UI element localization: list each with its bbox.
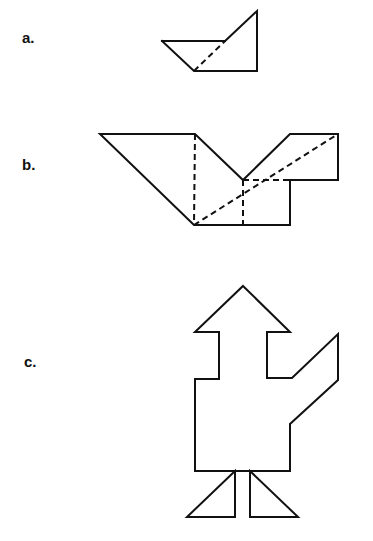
- figure-b-outline: [100, 134, 338, 225]
- figure-a-dashed-line: [194, 41, 225, 71]
- figure-b-bird-shape: [100, 134, 338, 225]
- tangram-figures: [0, 0, 373, 541]
- figure-c-person-shape: [187, 286, 338, 517]
- figure-a-boat-shape: [162, 11, 257, 71]
- figure-b-dashed-line: [194, 134, 195, 225]
- figure-c-outline: [187, 471, 235, 517]
- figure-c-outline: [250, 471, 298, 517]
- figure-c-outline: [195, 286, 338, 471]
